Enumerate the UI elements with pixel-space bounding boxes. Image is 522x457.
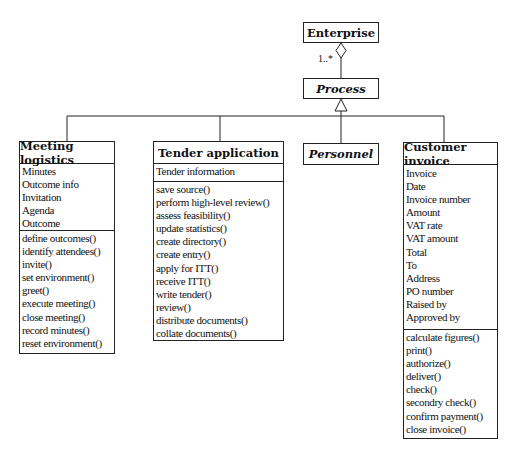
class-header: Customer invoice xyxy=(404,143,497,165)
attribute: Address xyxy=(406,272,496,285)
attribute: To xyxy=(406,259,496,272)
attribute: Date xyxy=(406,180,496,193)
attribute: VAT rate xyxy=(406,219,496,232)
uml-diagram: Enterprise 1..* Process Meeting logistic… xyxy=(0,0,522,457)
operation: write tender() xyxy=(156,288,282,301)
operation: execute meeting() xyxy=(22,297,113,310)
class-name: Meeting logistics xyxy=(20,139,114,167)
operation: perform high-level review() xyxy=(156,196,282,209)
attribute: Amount xyxy=(406,206,496,219)
attribute: Minutes xyxy=(22,165,113,178)
attribute: Invitation xyxy=(22,191,113,204)
generalization-triangle-icon xyxy=(335,99,347,111)
class-meeting-logistics: Meeting logistics Minutes Outcome info I… xyxy=(19,141,115,354)
class-enterprise: Enterprise xyxy=(303,22,379,43)
operation: invite() xyxy=(22,258,113,271)
operation: calculate figures() xyxy=(406,331,496,344)
attributes-section: Invoice Date Invoice number Amount VAT r… xyxy=(404,165,497,329)
class-header: Tender application xyxy=(154,142,283,164)
attribute: Invoice xyxy=(406,167,496,180)
class-name: Tender application xyxy=(158,146,279,160)
operation: authorize() xyxy=(406,357,496,370)
operation: close invoice() xyxy=(406,423,496,436)
operation: record minutes() xyxy=(22,324,113,337)
attribute: Tender information xyxy=(156,165,282,178)
operation: define outcomes() xyxy=(22,232,113,245)
operation: collate documents() xyxy=(156,327,282,340)
attributes-section: Minutes Outcome info Invitation Agenda O… xyxy=(20,164,114,230)
attribute: Outcome xyxy=(22,217,113,230)
operation: secondry check() xyxy=(406,396,496,409)
operation: identify attendees() xyxy=(22,245,113,258)
operation: check() xyxy=(406,383,496,396)
operation: print() xyxy=(406,344,496,357)
operation: create directory() xyxy=(156,235,282,248)
multiplicity-label: 1..* xyxy=(318,53,333,64)
operation: close meeting() xyxy=(22,311,113,324)
operations-section: define outcomes() identify attendees() i… xyxy=(20,230,114,351)
class-name: Enterprise xyxy=(307,26,375,40)
attributes-section: Tender information xyxy=(154,164,283,181)
attribute: Invoice number xyxy=(406,193,496,206)
operation: create entry() xyxy=(156,248,282,261)
operations-section: save source() perform high-level review(… xyxy=(154,181,283,341)
aggregation-diamond-icon xyxy=(336,43,346,58)
operation: assess feasibility() xyxy=(156,209,282,222)
attribute: Agenda xyxy=(22,204,113,217)
attribute: Approved by xyxy=(406,311,496,324)
class-tender-application: Tender application Tender information sa… xyxy=(153,141,284,341)
operation: receive ITT() xyxy=(156,275,282,288)
operation: greet() xyxy=(22,284,113,297)
attribute: Outcome info xyxy=(22,178,113,191)
operations-section: calculate figures() print() authorize() … xyxy=(404,329,497,437)
attribute: Total xyxy=(406,246,496,259)
class-header: Meeting logistics xyxy=(20,142,114,164)
operation: review() xyxy=(156,301,282,314)
attribute: Raised by xyxy=(406,298,496,311)
operation: distribute documents() xyxy=(156,314,282,327)
class-name: Customer invoice xyxy=(404,140,497,168)
class-name: Process xyxy=(316,82,366,96)
attribute: VAT amount xyxy=(406,232,496,245)
operation: save source() xyxy=(156,183,282,196)
class-customer-invoice: Customer invoice Invoice Date Invoice nu… xyxy=(403,142,498,439)
operation: deliver() xyxy=(406,370,496,383)
operation: confirm payment() xyxy=(406,410,496,423)
class-process: Process xyxy=(303,78,379,99)
operation: set environment() xyxy=(22,271,113,284)
class-name: Personnel xyxy=(309,147,373,161)
attribute: PO number xyxy=(406,285,496,298)
operation: reset environment() xyxy=(22,337,113,350)
class-personnel: Personnel xyxy=(303,143,379,165)
operation: update statistics() xyxy=(156,222,282,235)
operation: apply for ITT() xyxy=(156,262,282,275)
